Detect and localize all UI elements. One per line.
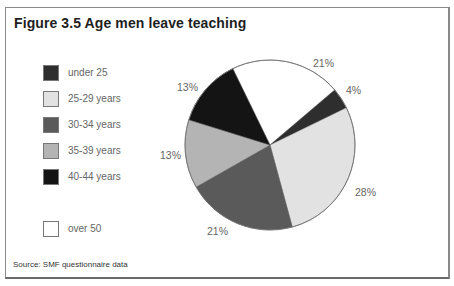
pct-label-25-29: 28% <box>355 186 376 198</box>
pie-chart <box>0 0 454 286</box>
pct-label-under-25: 4% <box>346 84 361 96</box>
source-note: Source: SMF questionnaire data <box>13 260 128 269</box>
pct-label-35-39: 13% <box>160 149 181 161</box>
pct-label-over-50: 21% <box>313 57 334 69</box>
pct-label-30-34: 21% <box>207 225 228 237</box>
pie-slices <box>185 60 355 230</box>
pct-label-40-44: 13% <box>177 81 198 93</box>
